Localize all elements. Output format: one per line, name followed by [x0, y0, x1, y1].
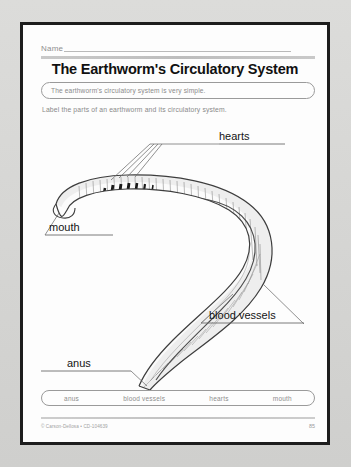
instruction-text: Label the parts of an earthworm and its …	[42, 106, 227, 113]
name-label: Name	[41, 44, 63, 53]
label-hearts: hearts	[219, 130, 250, 142]
label-mouth: mouth	[49, 221, 80, 233]
worm-body	[23, 118, 330, 393]
word-bank-term-blood-vessels[interactable]: blood vessels	[123, 395, 165, 402]
word-bank-term-hearts[interactable]: hearts	[209, 395, 228, 402]
earthworm-diagram: hearts mouth blood vessels anus	[23, 118, 330, 393]
label-blood-vessels: blood vessels	[209, 309, 276, 321]
worksheet-page: Name The Earthworm's Circulatory System …	[20, 22, 330, 445]
label-anus: anus	[67, 357, 91, 369]
name-field-row[interactable]: Name	[41, 39, 291, 53]
footer-divider	[41, 417, 315, 419]
page-title: The Earthworm's Circulatory System	[23, 61, 327, 77]
name-write-line[interactable]	[64, 51, 291, 52]
footer-credit: © Carson-Dellosa • CD-104639	[41, 424, 108, 429]
word-bank-term-anus[interactable]: anus	[64, 395, 79, 402]
footer-page-number: 85	[309, 423, 315, 429]
word-bank: anus blood vessels hearts mouth	[41, 390, 315, 406]
header-divider	[41, 56, 315, 59]
footer: © Carson-Dellosa • CD-104639 85	[41, 423, 315, 429]
fact-text: The earthworm's circulatory system is ve…	[42, 87, 206, 94]
word-bank-term-mouth[interactable]: mouth	[273, 395, 292, 402]
fact-callout: The earthworm's circulatory system is ve…	[41, 82, 315, 99]
